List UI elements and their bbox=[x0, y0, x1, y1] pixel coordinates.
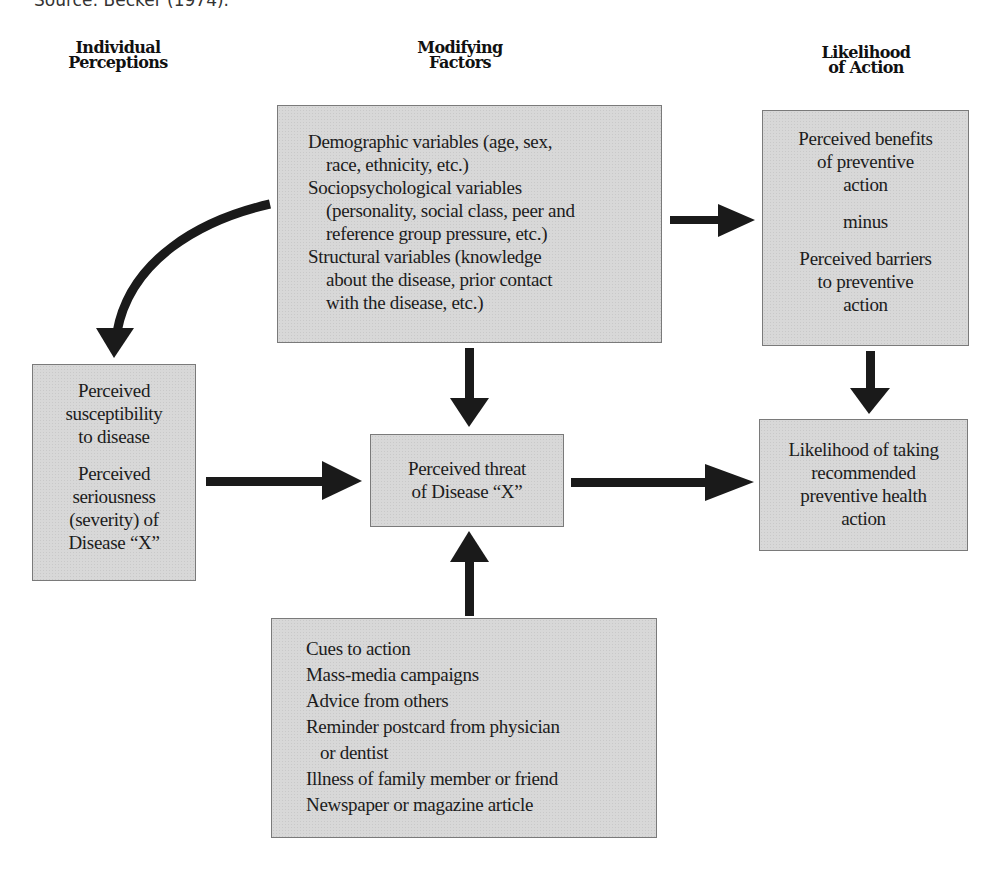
benefits-line: Perceived benefits bbox=[763, 127, 968, 150]
modifying-line: with the disease, etc.) bbox=[308, 291, 661, 314]
seriousness-line: Perceived bbox=[33, 462, 195, 485]
header-likelihood-of-action: Likelihood of Action bbox=[806, 45, 926, 75]
threat-line: of Disease “X” bbox=[371, 480, 563, 503]
cue-line: Newspaper or magazine article bbox=[306, 792, 656, 818]
cue-line: Advice from others bbox=[306, 688, 656, 714]
cue-line: Mass-media campaigns bbox=[306, 662, 656, 688]
susceptibility-line: susceptibility bbox=[33, 402, 195, 425]
modifying-line: Structural variables (knowledge bbox=[308, 245, 661, 268]
source-caption: Source: Becker (1974). bbox=[34, 0, 229, 10]
arrow-down-icon bbox=[850, 351, 890, 414]
header-individual-perceptions: Individual Perceptions bbox=[58, 40, 178, 70]
barriers-line: action bbox=[763, 293, 968, 316]
modifying-line: Demographic variables (age, sex, bbox=[308, 130, 661, 153]
modifying-line: reference group pressure, etc.) bbox=[308, 222, 661, 245]
likelihood-line: Likelihood of taking bbox=[760, 438, 967, 461]
barriers-line: Perceived barriers bbox=[763, 247, 968, 270]
cue-line: or dentist bbox=[306, 740, 656, 766]
cue-line: Reminder postcard from physician bbox=[306, 714, 656, 740]
header-line: Perceptions bbox=[58, 55, 178, 70]
susceptibility-line: Perceived bbox=[33, 379, 195, 402]
cues-to-action-box: Cues to action Mass-media campaigns Advi… bbox=[271, 618, 657, 838]
benefits-line: action bbox=[763, 173, 968, 196]
cue-line: Cues to action bbox=[306, 636, 656, 662]
arrow-right-icon bbox=[571, 464, 754, 501]
modifying-line: Sociopsychological variables bbox=[308, 176, 661, 199]
threat-line: Perceived threat bbox=[371, 457, 563, 480]
individual-perceptions-box: Perceived susceptibility to disease Perc… bbox=[32, 364, 196, 581]
perceived-threat-box: Perceived threat of Disease “X” bbox=[370, 434, 564, 527]
modifying-factors-box: Demographic variables (age, sex, race, e… bbox=[277, 105, 662, 343]
minus-operator: minus bbox=[763, 210, 968, 233]
cue-line: Illness of family member or friend bbox=[306, 766, 656, 792]
modifying-line: race, ethnicity, etc.) bbox=[308, 153, 661, 176]
header-modifying-factors: Modifying Factors bbox=[400, 40, 520, 70]
likelihood-line: recommended bbox=[760, 461, 967, 484]
likelihood-line: action bbox=[760, 507, 967, 530]
arrow-right-icon bbox=[206, 461, 362, 500]
arrow-right-icon bbox=[670, 204, 755, 237]
likelihood-line: preventive health bbox=[760, 484, 967, 507]
header-line: Factors bbox=[400, 55, 520, 70]
modifying-line: about the disease, prior contact bbox=[308, 268, 661, 291]
likelihood-action-box: Likelihood of taking recommended prevent… bbox=[759, 419, 968, 551]
seriousness-line: seriousness bbox=[33, 485, 195, 508]
arrow-up-icon bbox=[450, 531, 489, 616]
curved-arrow-icon bbox=[96, 204, 270, 358]
arrow-down-icon bbox=[450, 348, 489, 427]
barriers-line: to preventive bbox=[763, 270, 968, 293]
header-line: of Action bbox=[806, 60, 926, 75]
benefits-barriers-box: Perceived benefits of preventive action … bbox=[762, 110, 969, 346]
benefits-line: of preventive bbox=[763, 150, 968, 173]
seriousness-line: Disease “X” bbox=[33, 531, 195, 554]
modifying-line: (personality, social class, peer and bbox=[308, 199, 661, 222]
susceptibility-line: to disease bbox=[33, 425, 195, 448]
seriousness-line: (severity) of bbox=[33, 508, 195, 531]
